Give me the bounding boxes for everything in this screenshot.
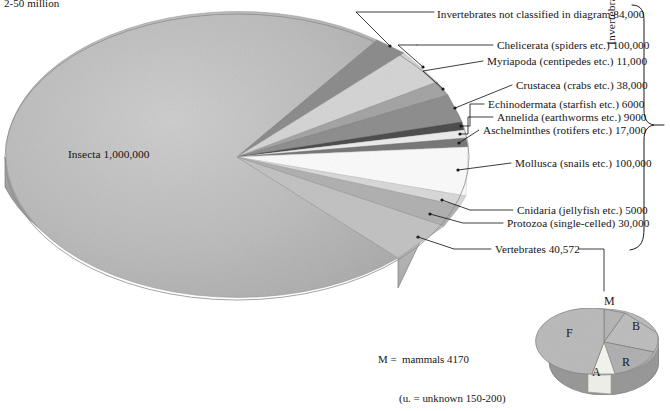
legend-line-m: M = mammals 4170 xyxy=(378,353,506,366)
top-note-label: 2-50 million xyxy=(4,0,59,9)
callout-protozoa: Protozoa (single-celled) 30,000 xyxy=(507,217,649,229)
subpie-label-m: M xyxy=(604,294,615,309)
callout-mollusca: Mollusca (snails etc.) 100,000 xyxy=(515,157,652,169)
vertebrates-legend: M = mammals 4170 (u. = unknown 150-200) … xyxy=(378,327,506,411)
figure-canvas: 2-50 million Insecta 1,000,000 Invertebr… xyxy=(0,0,670,411)
callout-vertebrates: Vertebrates 40,572 xyxy=(495,243,580,255)
callout-aschelminthes: Aschelminthes (rotifers etc.) 17,000 xyxy=(483,124,646,136)
vertebrates-subpie xyxy=(536,308,659,395)
invertebrates-bracket-label: Invertebrates 1,400,000 xyxy=(605,0,617,45)
callout-myriapoda: Myriapoda (centipedes etc.) 11,000 xyxy=(487,55,647,67)
legend-line-unknown: (u. = unknown 150-200) xyxy=(378,392,506,405)
subpie-label-b: B xyxy=(632,319,640,334)
subpie-label-a: A xyxy=(592,365,601,380)
subpie-label-f: F xyxy=(566,326,573,341)
callout-annelida: Annelida (earthworms etc.) 9000 xyxy=(497,111,646,123)
subpie-label-r: R xyxy=(622,355,630,370)
callout-chelicerata: Chelicerata (spiders etc.) 100,000 xyxy=(497,39,649,51)
insecta-slice-label: Insecta 1,000,000 xyxy=(68,148,150,160)
callout-crustacea: Crustacea (crabs etc.) 38,000 xyxy=(516,79,648,91)
callout-cnidaria: Cnidaria (jellyfish etc.) 5000 xyxy=(517,204,648,216)
callout-echinodermata: Echinodermata (starfish etc.) 6000 xyxy=(488,98,644,110)
